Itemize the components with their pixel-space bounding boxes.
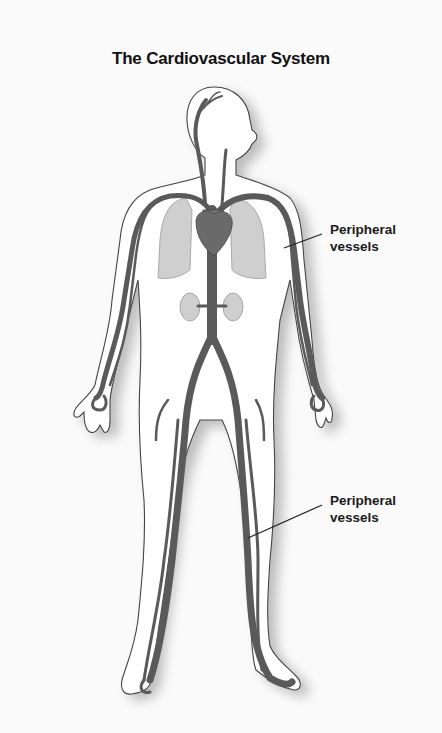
label-line-1: Peripheral <box>330 221 396 238</box>
label-line-2: vessels <box>330 509 396 526</box>
label-peripheral-vessels-lower: Peripheral vessels <box>330 492 396 526</box>
label-line-1: Peripheral <box>330 492 396 509</box>
label-peripheral-vessels-upper: Peripheral vessels <box>330 221 396 255</box>
label-line-2: vessels <box>330 238 396 255</box>
body-figure <box>0 0 442 733</box>
